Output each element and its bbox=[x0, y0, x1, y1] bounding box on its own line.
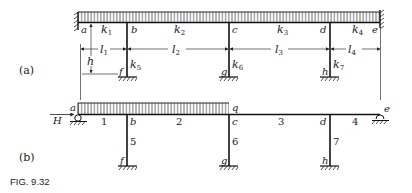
panel-a: a b c d e f g h k1 k2 k3 k4 k5 k6 k7 l1 … bbox=[19, 10, 384, 100]
joint-label-c: c bbox=[232, 24, 238, 35]
svg-text:k7: k7 bbox=[333, 58, 344, 72]
svg-text:k5: k5 bbox=[130, 58, 141, 72]
svg-text:k2: k2 bbox=[174, 23, 185, 37]
stiffness-k2: k2 bbox=[174, 23, 185, 37]
fixed-base-h-icon bbox=[320, 77, 339, 81]
member-number-5: 5 bbox=[130, 136, 136, 147]
member-number-4: 4 bbox=[352, 116, 358, 127]
joint-label-f: f bbox=[118, 66, 125, 77]
svg-text:k6: k6 bbox=[232, 58, 244, 72]
joint-label-e: e bbox=[372, 24, 378, 35]
joint-label-g-b: g bbox=[221, 155, 227, 166]
panel-label-a: (a) bbox=[19, 64, 34, 77]
joint-label-d: d bbox=[320, 24, 326, 35]
member-number-1: 1 bbox=[101, 116, 107, 127]
svg-text:l1: l1 bbox=[100, 43, 108, 57]
panel-b: H a b c d e f g h q bbox=[19, 102, 390, 170]
fixed-base-f-b-icon bbox=[118, 166, 137, 170]
panel-label-b: (b) bbox=[19, 151, 35, 164]
distributed-load-q bbox=[78, 103, 229, 114]
joint-label-b-b: b bbox=[130, 116, 136, 127]
svg-text:k3: k3 bbox=[277, 23, 288, 37]
svg-text:k4: k4 bbox=[352, 23, 364, 37]
fixed-wall-a-icon bbox=[74, 12, 78, 31]
load-label-q: q bbox=[232, 102, 238, 113]
reaction-label-H: H bbox=[52, 115, 62, 126]
distributed-load-a bbox=[78, 12, 380, 22]
fixed-base-h-b-icon bbox=[320, 166, 339, 170]
fixed-base-f-icon bbox=[118, 77, 137, 81]
joint-label-b: b bbox=[131, 24, 137, 35]
member-number-3: 3 bbox=[278, 116, 284, 127]
span-l2: l2 bbox=[172, 43, 180, 57]
joint-label-e-b: e bbox=[384, 103, 390, 114]
stiffness-k4: k4 bbox=[352, 23, 364, 37]
joint-label-c-b: c bbox=[232, 116, 238, 127]
joint-label-a: a bbox=[81, 24, 87, 35]
stiffness-k3: k3 bbox=[277, 23, 288, 37]
member-number-6: 6 bbox=[232, 136, 238, 147]
span-l4: l4 bbox=[348, 43, 357, 57]
stiffness-k7: k7 bbox=[333, 58, 344, 72]
stiffness-k5: k5 bbox=[130, 58, 141, 72]
joint-label-f-b: f bbox=[119, 155, 126, 166]
joint-label-d-b: d bbox=[320, 116, 326, 127]
pin-support-e-icon bbox=[372, 115, 389, 124]
svg-text:l3: l3 bbox=[275, 43, 283, 57]
fixed-base-g-icon bbox=[219, 77, 238, 81]
joint-label-h-b: h bbox=[322, 155, 328, 166]
svg-text:l2: l2 bbox=[172, 43, 180, 57]
fixed-base-g-b-icon bbox=[219, 166, 238, 170]
member-number-2: 2 bbox=[176, 116, 182, 127]
stiffness-k1: k1 bbox=[101, 23, 112, 37]
frame-diagram: a b c d e f g h k1 k2 k3 k4 k5 k6 k7 l1 … bbox=[0, 0, 412, 193]
joint-label-a-b: a bbox=[70, 102, 76, 113]
svg-text:l4: l4 bbox=[348, 43, 357, 57]
figure-caption: FIG. 9.32 bbox=[10, 176, 50, 187]
joint-label-h: h bbox=[322, 66, 328, 77]
svg-text:k1: k1 bbox=[101, 23, 112, 37]
stiffness-k6: k6 bbox=[232, 58, 244, 72]
joint-label-g: g bbox=[221, 66, 227, 77]
span-l1: l1 bbox=[100, 43, 108, 57]
height-label: h bbox=[87, 55, 94, 68]
roller-support-a-icon bbox=[70, 115, 87, 125]
span-l3: l3 bbox=[275, 43, 283, 57]
fixed-wall-e-icon bbox=[380, 10, 384, 29]
member-number-7: 7 bbox=[333, 136, 339, 147]
